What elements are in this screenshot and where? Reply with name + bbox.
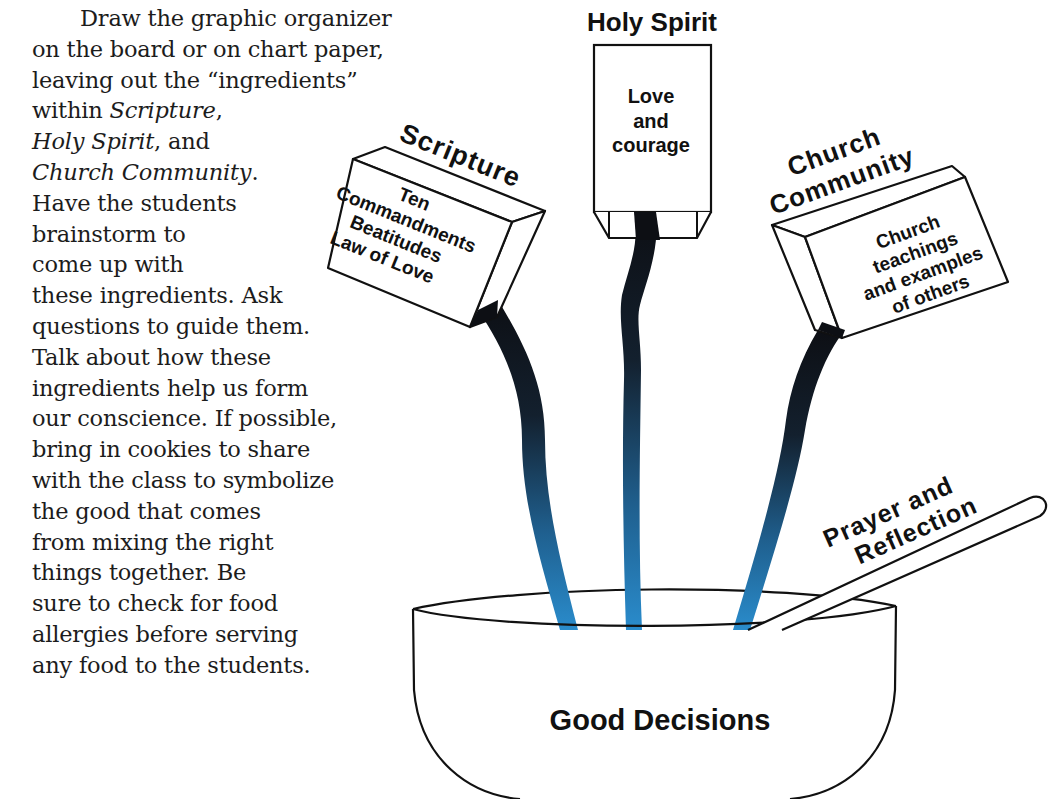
- church-stream: [733, 330, 845, 630]
- holy-spirit-title: Holy Spirit: [587, 7, 717, 37]
- graphic-organizer: Good Decisions Prayer and Reflection Hol…: [0, 0, 1049, 799]
- spoon: Prayer and Reflection: [748, 465, 1046, 630]
- ingredient-streams: [478, 214, 845, 630]
- scripture-container: Scripture Ten Commandments Beatitudes La…: [317, 118, 545, 327]
- bowl-label: Good Decisions: [550, 704, 771, 736]
- holy-spirit-item: courage: [612, 134, 690, 156]
- holy-spirit-item: and: [633, 110, 669, 132]
- holy-spirit-container: Holy Spirit Love and courage: [587, 7, 717, 240]
- bowl-body: Good Decisions: [413, 606, 896, 799]
- holy-spirit-stream: [621, 214, 657, 630]
- church-community-container: Church Community Church teachings and ex…: [755, 112, 1008, 338]
- scripture-stream: [478, 300, 578, 630]
- holy-spirit-item: Love: [628, 85, 675, 107]
